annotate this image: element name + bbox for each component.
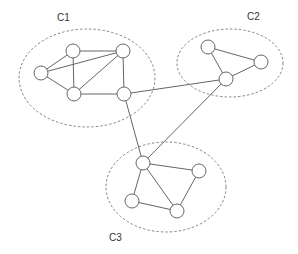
graph-node-d: [67, 87, 81, 101]
graph-node-g: [254, 55, 268, 69]
edge-e-h: [124, 79, 226, 94]
cluster-graph-diagram: C1C2C3: [0, 0, 298, 254]
cluster-label-c3: C3: [109, 232, 122, 243]
graph-node-e: [117, 87, 131, 101]
graph-node-b: [116, 44, 130, 58]
cluster-label-c2: C2: [247, 11, 260, 22]
graph-node-a: [66, 44, 80, 58]
edges-layer: [41, 47, 261, 211]
graph-node-i: [136, 156, 150, 170]
edge-h-i: [143, 79, 226, 163]
graph-node-l: [170, 204, 184, 218]
nodes-layer: [34, 40, 268, 218]
graph-node-k: [125, 194, 139, 208]
edge-i-l: [143, 163, 177, 211]
edge-i-j: [143, 163, 199, 171]
graph-node-j: [192, 164, 206, 178]
graph-node-h: [219, 72, 233, 86]
cluster-label-c1: C1: [57, 12, 70, 23]
graph-node-c: [34, 66, 48, 80]
edge-f-g: [208, 47, 261, 62]
cluster-boundary-c3: [106, 142, 226, 232]
clusters-layer: [19, 29, 283, 232]
graph-node-f: [201, 40, 215, 54]
